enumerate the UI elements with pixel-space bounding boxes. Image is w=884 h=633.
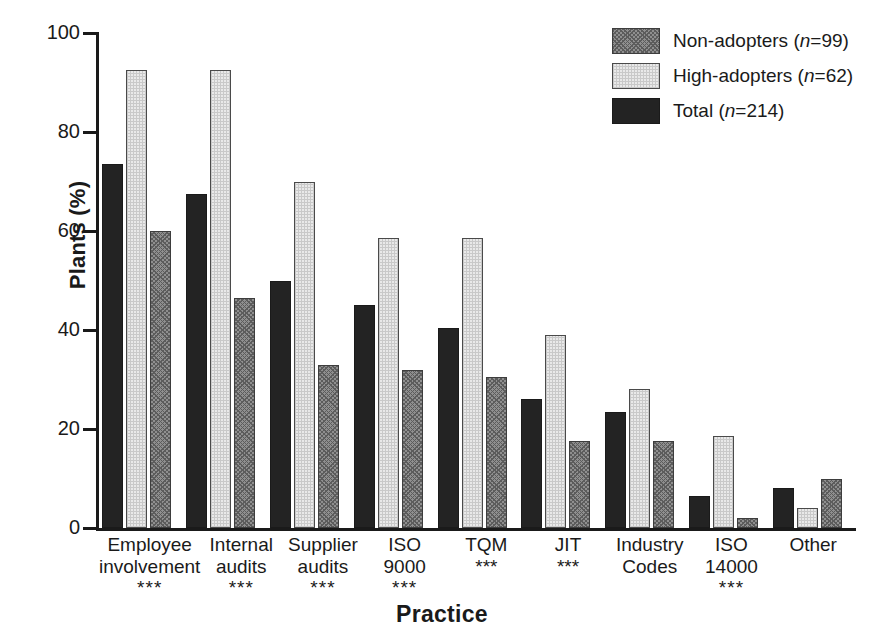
x-axis-title: Practice [0,601,884,628]
y-tick-label: 20 [34,418,80,438]
bar-high [378,238,399,528]
bar-total [186,194,207,528]
category-label: ISO14000*** [691,534,773,597]
category-label-line1: Supplier [288,534,358,555]
category-label-line1: TQM [465,534,507,555]
bar-non [150,231,171,528]
bar-high [797,508,818,528]
bar-high [126,70,147,528]
y-tick-mark [83,131,97,134]
x-axis-line [96,528,856,531]
legend-label: High-adopters (n=62) [673,66,853,86]
bar-high [545,335,566,528]
bar-total [689,496,710,528]
bar-non [653,441,674,528]
legend-label: Non-adopters (n=99) [673,31,849,51]
x-axis-category-labels: Employeeinvolvement***Internalaudits***S… [99,534,854,597]
category-label-line2: *** [446,556,528,578]
category-label: TQM*** [446,534,528,597]
category-label-line1: Industry [616,534,684,555]
category-label-line1: Internal [210,534,273,555]
category-label: Internalaudits*** [200,534,282,597]
category-label: ISO9000*** [364,534,446,597]
bar-total [521,399,542,528]
bar-non [318,365,339,528]
y-tick-mark [83,32,97,35]
bar-non [486,377,507,528]
bar-total [605,412,626,528]
significance-marker: *** [364,578,446,597]
category-label-line2: Codes [609,556,691,578]
category-label-line1: Other [789,534,837,555]
bar-high [294,182,315,529]
bar-chart: 100806040200 Plants (%) Practice Employe… [0,0,884,633]
bar-total [102,164,123,528]
legend-swatch [612,28,660,54]
bar-group [183,33,267,528]
y-tick-mark [83,428,97,431]
bar-high [462,238,483,528]
category-label-line2: involvement [99,556,200,578]
y-tick-label: 100 [34,22,80,42]
category-label-line2: audits [200,556,282,578]
legend-item: High-adopters (n=62) [612,61,877,91]
y-tick-mark [83,527,97,530]
bar-group [99,33,183,528]
bar-high [629,389,650,528]
category-label: IndustryCodes [609,534,691,597]
category-label-line1: ISO [388,534,421,555]
bar-non [402,370,423,528]
category-label: Employeeinvolvement*** [99,534,200,597]
significance-marker: *** [282,578,364,597]
legend-item: Total (n=214) [612,96,877,126]
category-label: JIT*** [527,534,609,597]
chart-legend: Non-adopters (n=99)High-adopters (n=62)T… [612,26,877,131]
significance-marker: *** [99,578,200,597]
bar-total [270,281,291,529]
bar-non [821,479,842,529]
bar-group [518,33,602,528]
significance-marker: *** [200,578,282,597]
category-label: Supplieraudits*** [282,534,364,597]
bar-non [569,441,590,528]
category-label-line2: *** [527,556,609,578]
category-label: Other [772,534,854,597]
category-label-line1: ISO [715,534,748,555]
category-label-line2: 14000 [691,556,773,578]
category-label-line2: audits [282,556,364,578]
legend-item: Non-adopters (n=99) [612,26,877,56]
bar-group [351,33,435,528]
bar-total [354,305,375,528]
bar-total [773,488,794,528]
bar-high [713,436,734,528]
y-tick-label: 0 [34,517,80,537]
bar-group [267,33,351,528]
bar-non [234,298,255,528]
legend-swatch [612,63,660,89]
y-axis-title: Plants (%) [65,135,91,335]
bar-non [737,518,758,528]
bar-total [438,328,459,528]
bar-group [435,33,519,528]
category-label-line1: Employee [107,534,192,555]
legend-label: Total (n=214) [673,101,784,121]
significance-marker: *** [691,578,773,597]
category-label-line2: 9000 [364,556,446,578]
category-label-line1: JIT [555,534,581,555]
bar-high [210,70,231,528]
legend-swatch [612,98,660,124]
